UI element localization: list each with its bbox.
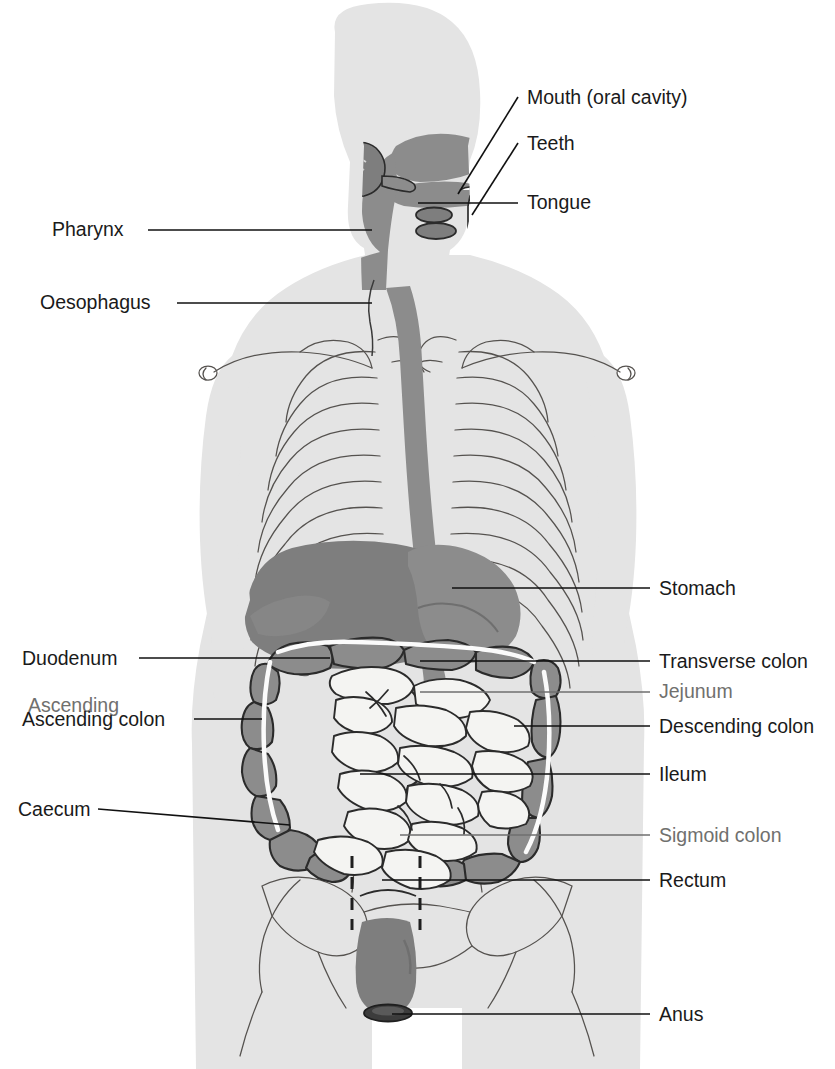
label-sigmoid-colon: Sigmoid colon [659, 824, 781, 846]
label-teeth: Teeth [527, 132, 575, 154]
diagram-canvas: Pharynx Oesophagus Duodenum Ascending As… [0, 0, 835, 1069]
label-ileum: Ileum [659, 763, 707, 785]
label-duodenum: Duodenum [22, 647, 117, 669]
label-stomach: Stomach [659, 577, 736, 599]
label-anus: Anus [659, 1003, 704, 1025]
label-mouth: Mouth (oral cavity) [527, 86, 687, 108]
label-tongue: Tongue [527, 191, 591, 213]
label-pharynx: Pharynx [52, 218, 124, 240]
label-jejunum: Jejunum [659, 680, 733, 702]
label-transverse-colon: Transverse colon [659, 650, 808, 672]
label-oesophagus: Oesophagus [40, 291, 151, 313]
label-descending-colon: Descending colon [659, 715, 814, 737]
label-ascending-colon: Ascending colon [22, 708, 165, 730]
digestive-system-figure: Pharynx Oesophagus Duodenum Ascending As… [0, 0, 835, 1069]
label-caecum: Caecum [18, 798, 91, 820]
organ-anus [364, 1005, 412, 1022]
leader-line-teeth [472, 143, 518, 215]
label-rectum: Rectum [659, 869, 726, 891]
